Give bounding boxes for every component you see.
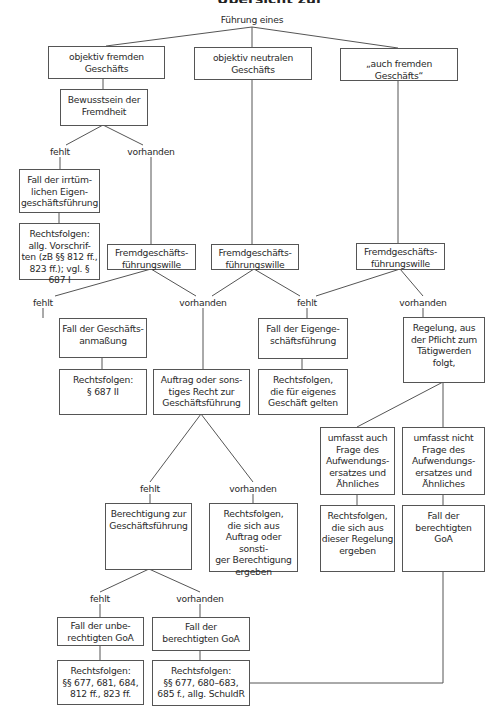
box-fall-berechtigte-goa-rechts: Fall der berechtigten GoA bbox=[402, 505, 485, 572]
label-fehlt: fehlt bbox=[89, 593, 111, 604]
box-umfasst-auch: umfasst auch Frage des Aufwendungs- ersa… bbox=[320, 427, 395, 495]
box-irrtuemlich: Fall der irrtüm- lichen Eigen- geschäfts… bbox=[19, 169, 100, 213]
label-vorhanden: vorhanden bbox=[178, 297, 227, 308]
box-berechtigte-goa: Fall der berechtigten GoA bbox=[152, 617, 250, 651]
box-umfasst-nicht: umfasst nicht Frage des Aufwendungs- ers… bbox=[402, 427, 485, 495]
box-rechtsfolgen-allg: Rechtsfolgen: allg. Vorschrif- ten (zB §… bbox=[19, 223, 100, 280]
box-unberechtigte-goa: Fall der unbe- rechtigten GoA bbox=[57, 617, 144, 646]
label-fehlt: fehlt bbox=[49, 146, 71, 157]
box-rechtsfolgen-berechtigt: Rechtsfolgen: §§ 677, 680–683, 685 f., a… bbox=[152, 660, 250, 706]
box-rechtsfolgen-auftrag: Rechtsfolgen, die sich aus Auftrag oder … bbox=[209, 503, 298, 572]
box-objektiv-fremd: objektiv fremden Geschäfts bbox=[48, 46, 165, 79]
box-wille-3: Fremdgeschäfts- führungswille bbox=[356, 243, 445, 270]
label-vorhanden: vorhanden bbox=[126, 146, 175, 157]
label-vorhanden: vorhanden bbox=[228, 483, 277, 494]
label-fehlt: fehlt bbox=[139, 483, 161, 494]
box-bewusstsein: Bewusstsein der Fremdheit bbox=[60, 89, 148, 126]
box-berechtigung: Berechtigung zur Geschäftsführung bbox=[105, 503, 192, 570]
label-vorhanden: vorhanden bbox=[398, 297, 447, 308]
root-label: Führung eines bbox=[220, 14, 284, 25]
label-vorhanden: vorhanden bbox=[175, 593, 224, 604]
box-objektiv-neutral: objektiv neutralen Geschäfts bbox=[194, 47, 312, 80]
box-auftrag: Auftrag oder sons- tiges Recht zur Gesch… bbox=[153, 369, 250, 415]
box-rechtsfolgen-unberechtigt: Rechtsfolgen: §§ 677, 681, 684, 812 ff.,… bbox=[57, 660, 144, 705]
box-wille-2: Fremdgeschäfts- führungswille bbox=[211, 244, 299, 270]
box-auch-fremd: „auch fremden Geschäfts“ bbox=[340, 48, 458, 81]
box-rechtsfolgen-687: Rechtsfolgen: § 687 II bbox=[59, 369, 147, 415]
diagram-title-cut: Übersicht zur Geschäftsführung ohne Auft… bbox=[150, 0, 390, 3]
box-regelung: Regelung, aus der Pflicht zum Tätigwerde… bbox=[403, 317, 485, 383]
label-fehlt: fehlt bbox=[296, 297, 318, 308]
box-eigengeschaeftsfuehrung: Fall der Eigenge- schäftsführung bbox=[258, 318, 348, 359]
box-wille-1: Fremdgeschäfts- führungswille bbox=[107, 244, 196, 270]
box-anmassung: Fall der Geschäfts- anmaßung bbox=[59, 318, 147, 358]
box-rechtsfolgen-regelung: Rechtsfolgen, die sich aus dieser Regelu… bbox=[320, 505, 395, 572]
label-fehlt: fehlt bbox=[32, 297, 54, 308]
box-rechtsfolgen-eigen: Rechtsfolgen, die für eigenes Geschäft g… bbox=[258, 369, 348, 415]
